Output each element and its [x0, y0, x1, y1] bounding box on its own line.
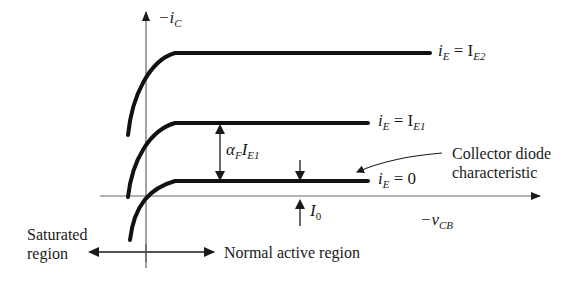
x-axis-label: −vCB — [420, 210, 453, 231]
y-axis-label-main: −i — [158, 8, 174, 27]
curve-label-eq: = I — [389, 111, 413, 130]
alpha-ie1-label: αFIE1 — [226, 140, 260, 161]
saturated-region-label: Saturated region — [27, 225, 87, 263]
y-axis-label: −iC — [158, 8, 182, 29]
characteristic-plot — [0, 0, 587, 282]
collector-diode-line1: Collector diode — [452, 144, 551, 163]
saturated-line1: Saturated — [27, 225, 87, 244]
collector-diode-label: Collector diode characteristic — [452, 144, 551, 182]
i0-sub: 0 — [316, 210, 322, 222]
curve-label-rhs-sub: E2 — [473, 50, 485, 62]
curve-label-ie1: iE = IE1 — [378, 111, 425, 132]
saturated-line2: region — [27, 244, 87, 263]
curve-label-ie0: iE = 0 — [378, 169, 416, 190]
curve-label-eq: = I — [449, 41, 473, 60]
normal-active-region-label: Normal active region — [224, 243, 360, 262]
curve-label-rhs-sub: E1 — [413, 120, 425, 132]
i0-label: I0 — [310, 201, 321, 222]
x-axis-label-main: −v — [420, 210, 439, 229]
alpha-main-sub: E1 — [247, 149, 259, 161]
alpha-symbol: α — [226, 140, 235, 159]
x-axis-label-sub: CB — [439, 219, 453, 231]
curve-ie0 — [130, 181, 368, 240]
curve-label-ie2: iE = IE2 — [438, 41, 485, 62]
alpha-sub: F — [235, 149, 242, 161]
collector-diode-line2: characteristic — [452, 163, 551, 182]
y-axis-label-sub: C — [174, 17, 181, 29]
curve-label-eq: = 0 — [389, 169, 416, 188]
